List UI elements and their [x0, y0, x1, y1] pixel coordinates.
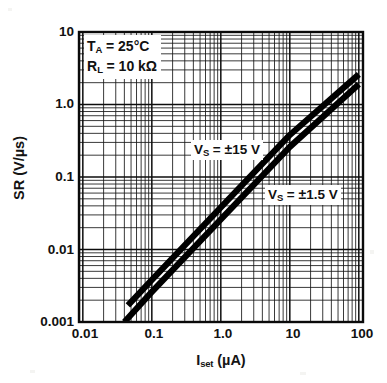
vs-symbol: V: [268, 187, 277, 202]
y-tick-label: 0.01: [48, 242, 74, 257]
x-tick-label: 10: [263, 326, 323, 341]
temperature-condition: TA = 25°C: [87, 37, 157, 57]
vs-level: 1.5 V: [306, 187, 338, 202]
y-axis-title: SR (V/µs): [11, 108, 27, 228]
x-tick-label: 0.1: [124, 326, 184, 341]
x-axis-title: Iset (µA): [79, 352, 363, 369]
conditions-annotation: TA = 25°C RL = 10 kΩ: [84, 35, 161, 79]
load-symbol: R: [87, 58, 97, 74]
vs-level: 15 V: [232, 142, 260, 157]
temp-symbol: T: [87, 38, 96, 54]
y-axis-title-unit: µs): [11, 136, 27, 157]
y-axis-title-main: SR (V/: [11, 157, 27, 200]
x-tick-label: 1.0: [193, 326, 253, 341]
y-tick-label: 1.0: [55, 96, 74, 111]
plus-minus-icon: ±: [224, 141, 232, 157]
load-value: = 10 kΩ: [103, 58, 157, 74]
y-tick-label: 10: [59, 24, 74, 39]
load-condition: RL = 10 kΩ: [87, 57, 157, 77]
plus-minus-icon: ±: [298, 186, 306, 202]
slew-rate-chart: TA = 25°C RL = 10 kΩ VS = ±15 V VS = ±1.…: [0, 0, 387, 383]
x-axis-title-unit: (µA): [213, 352, 246, 368]
x-tick-label: 0.01: [55, 326, 115, 341]
y-tick-label: 0.1: [55, 169, 74, 184]
temp-value: = 25°C: [102, 38, 149, 54]
vs-eq: =: [283, 187, 298, 202]
x-axis-title-subscript: set: [200, 358, 213, 369]
vs-eq: =: [209, 142, 224, 157]
vs-symbol: V: [194, 142, 203, 157]
x-tick-label: 100: [332, 326, 387, 341]
curve-label-1p5v: VS = ±1.5 V: [265, 185, 341, 205]
curve-label-15v: VS = ±15 V: [191, 140, 263, 160]
